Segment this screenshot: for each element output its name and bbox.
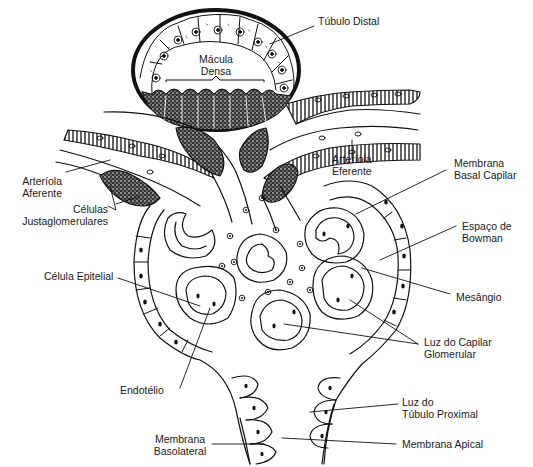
proximal-tubule xyxy=(232,376,340,464)
label-text: Densa xyxy=(194,65,238,77)
label-text: Túbulo Proximal xyxy=(402,408,478,420)
label-text: Célula Epitelial xyxy=(44,270,113,282)
label-text: Arteríola xyxy=(6,175,62,187)
label-text: Membrana Apical xyxy=(402,438,483,450)
label-text: Basal Capilar xyxy=(454,169,516,181)
label-text: Membrana xyxy=(150,433,210,445)
label-luz-do-tubulo-proximal: Luz do Túbulo Proximal xyxy=(402,396,478,420)
label-arteriola-eferente: Arteríola Eferente xyxy=(332,153,372,177)
label-text: Eferente xyxy=(332,165,372,177)
label-espaco-de-bowman: Espaço de Bowman xyxy=(462,220,512,244)
label-arteriola-aferente: Arteríola Aferente xyxy=(6,175,62,199)
label-text: Justaglomerulares xyxy=(10,215,108,227)
label-text: Luz do xyxy=(402,396,478,408)
label-text: Glomerular xyxy=(424,348,492,360)
label-luz-do-capilar-glomerular: Luz do Capilar Glomerular xyxy=(424,336,492,360)
label-text: Células xyxy=(10,203,108,215)
label-text: Túbulo Distal xyxy=(318,15,379,27)
label-text: Endotélio xyxy=(120,384,164,396)
label-text: Espaço de xyxy=(462,220,512,232)
label-membrana-basolateral: Membrana Basolateral xyxy=(150,433,210,457)
label-text: Mácula xyxy=(194,53,238,65)
label-celulas-justaglomerulares: Células Justaglomerulares xyxy=(10,203,108,227)
label-text: Bowman xyxy=(462,232,512,244)
label-celula-epitelial: Célula Epitelial xyxy=(44,270,113,282)
label-macula-densa: Mácula Densa xyxy=(194,53,238,77)
label-membrana-apical: Membrana Apical xyxy=(402,438,483,450)
label-endotelio: Endotélio xyxy=(120,384,164,396)
label-text: Membrana xyxy=(454,157,516,169)
label-tubulo-distal: Túbulo Distal xyxy=(318,15,379,27)
label-text: Luz do Capilar xyxy=(424,336,492,348)
label-text: Mesângio xyxy=(456,291,502,303)
label-text: Arteríola xyxy=(332,153,372,165)
label-text: Aferente xyxy=(6,187,62,199)
label-mesangio: Mesângio xyxy=(456,291,502,303)
label-text: Basolateral xyxy=(150,445,210,457)
label-membrana-basal-capilar: Membrana Basal Capilar xyxy=(454,157,516,181)
